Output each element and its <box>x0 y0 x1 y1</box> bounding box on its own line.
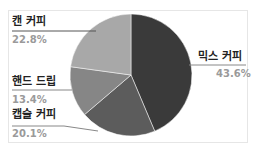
label-hand-drip: 핸드 드립 <box>12 76 56 88</box>
slice-can-coffee <box>71 14 131 75</box>
pct-mix-coffee: 43.6% <box>216 68 251 79</box>
label-capsule-coffee: 캡슐 커피 <box>12 109 56 121</box>
pct-hand-drip: 13.4% <box>12 94 47 105</box>
label-can-coffee: 캔 커피 <box>12 16 46 28</box>
label-mix-coffee: 믹스 커피 <box>198 51 242 63</box>
pct-capsule-coffee: 20.1% <box>12 128 47 139</box>
pct-can-coffee: 22.8% <box>12 34 47 45</box>
